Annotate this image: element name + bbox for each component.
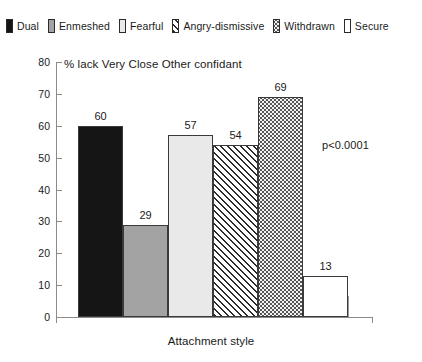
y-axis-tick-label: 80 [22,57,50,68]
legend-item-angry-dismissive: Angry-dismissive [172,19,264,33]
x-axis-category-divider [348,296,349,317]
legend-item-secure: Secure [344,19,389,33]
bar-value-label: 60 [78,111,123,122]
chart-figure: Dual Enmeshed Fearful Angry-dismissive W… [0,0,422,362]
x-axis-end-tick [372,317,373,323]
chart-title: % lack Very Close Other confidant [64,58,242,70]
legend-item-withdrawn: Withdrawn [273,19,335,33]
legend-swatch-secure-icon [344,19,351,33]
bar-value-label: 57 [168,120,213,131]
legend-label-dual: Dual [17,21,39,32]
y-axis-tick-label: 50 [22,153,50,164]
y-axis-tick-label: 60 [22,121,50,132]
y-axis-tick [57,253,62,254]
y-axis-tick-label: 10 [22,280,50,291]
bar-withdrawn [258,97,303,317]
bar-enmeshed [123,225,168,317]
x-axis-line [56,317,373,318]
legend-label-withdrawn: Withdrawn [284,21,335,32]
y-axis-tick [57,126,62,127]
legend-label-enmeshed: Enmeshed [59,21,110,32]
y-axis-tick-label: 40 [22,185,50,196]
legend-item-enmeshed: Enmeshed [48,19,110,33]
bar-dual [78,126,123,317]
x-axis-label: Attachment style [0,335,422,347]
y-axis-tick-label: 30 [22,216,50,227]
y-axis-tick [57,158,62,159]
y-axis-tick-label: 20 [22,248,50,259]
y-axis-tick-label: 0 [22,312,50,323]
legend-label-secure: Secure [355,21,389,32]
legend-swatch-fearful-icon [119,19,126,33]
y-axis-tick [57,62,62,63]
legend-swatch-withdrawn-icon [273,19,280,33]
y-axis-tick [57,317,62,318]
y-axis-tick [57,190,62,191]
bar-secure [303,276,348,317]
y-axis-tick [57,285,62,286]
chart-legend: Dual Enmeshed Fearful Angry-dismissive W… [6,19,398,33]
y-axis-tick-label: 70 [22,89,50,100]
legend-label-fearful: Fearful [130,21,163,32]
y-axis-tick [57,94,62,95]
bar-value-label: 54 [213,130,258,141]
bar-angry-dismissive [213,145,258,317]
y-axis-tick [57,221,62,222]
pvalue-annotation: p<0.0001 [322,139,369,151]
bar-fearful [168,135,213,317]
legend-swatch-angry-dismissive-icon [172,19,179,33]
bar-value-label: 29 [123,210,168,221]
bar-value-label: 13 [303,261,348,272]
bar-value-label: 69 [258,82,303,93]
legend-item-fearful: Fearful [119,19,163,33]
legend-swatch-dual-icon [6,19,13,33]
legend-label-angry-dismissive: Angry-dismissive [183,21,264,32]
legend-item-dual: Dual [6,19,39,33]
legend-swatch-enmeshed-icon [48,19,55,33]
